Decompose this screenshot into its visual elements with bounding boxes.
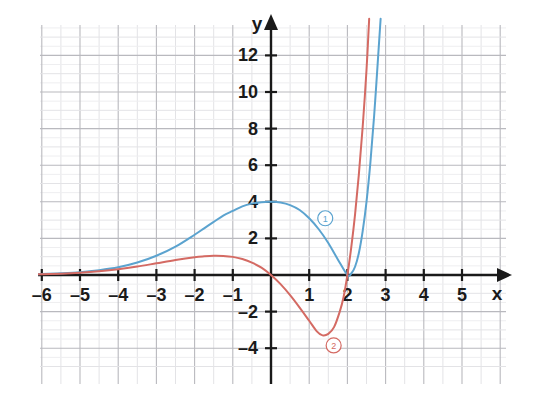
x-tick-label: –4 bbox=[108, 285, 128, 305]
x-tick-label: –5 bbox=[70, 285, 90, 305]
grid-major bbox=[40, 25, 506, 384]
x-tick-label: –2 bbox=[185, 285, 205, 305]
x-tick-label: –3 bbox=[146, 285, 166, 305]
x-tick-label: –6 bbox=[32, 285, 52, 305]
y-axis-label: y bbox=[252, 13, 263, 34]
axes bbox=[38, 14, 512, 384]
x-axis-arrow bbox=[497, 268, 512, 282]
x-tick-label: 4 bbox=[419, 285, 429, 305]
y-tick-label: 8 bbox=[248, 119, 258, 139]
x-tick-label: 3 bbox=[381, 285, 391, 305]
y-tick-label: 10 bbox=[238, 82, 258, 102]
curve-badge-1: 1 bbox=[318, 211, 333, 226]
y-tick-label: –4 bbox=[238, 338, 258, 358]
graph-figure: –6–5–4–3–2–112345–4–224681012 12 x y bbox=[0, 0, 533, 414]
curve-badge-2: 2 bbox=[326, 338, 341, 353]
y-tick-label: 12 bbox=[238, 45, 258, 65]
svg-text:1: 1 bbox=[323, 214, 328, 224]
coordinate-plot: –6–5–4–3–2–112345–4–224681012 12 x y bbox=[0, 0, 533, 414]
svg-text:2: 2 bbox=[331, 341, 336, 351]
y-axis-arrow bbox=[264, 14, 278, 30]
x-tick-label: 1 bbox=[304, 285, 314, 305]
x-axis-label: x bbox=[492, 283, 503, 304]
x-tick-label: 5 bbox=[457, 285, 467, 305]
y-tick-label: –2 bbox=[238, 302, 258, 322]
y-tick-label: 6 bbox=[248, 155, 258, 175]
y-tick-label: 2 bbox=[248, 228, 258, 248]
